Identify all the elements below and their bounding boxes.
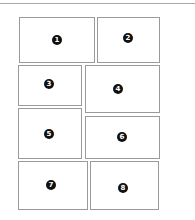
number-badge-icon: 5 <box>44 129 54 139</box>
number-badge-icon: 3 <box>44 79 54 89</box>
number-badge-icon: 8 <box>118 183 128 193</box>
number-badge-icon: 1 <box>52 35 62 45</box>
number-badge-icon: 4 <box>113 84 123 94</box>
number-badge-icon: 6 <box>117 132 127 142</box>
number-badge-icon: 2 <box>123 33 133 43</box>
number-badge-icon: 7 <box>46 180 56 190</box>
top-divider <box>0 3 195 4</box>
